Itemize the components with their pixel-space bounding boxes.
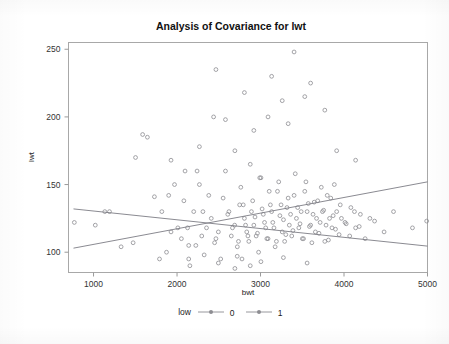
y-tick-label: 100 bbox=[46, 247, 60, 257]
data-point bbox=[282, 256, 286, 260]
legend-items: 01 bbox=[198, 308, 283, 318]
y-tick-label: 250 bbox=[46, 44, 60, 54]
legend-label-1: 1 bbox=[278, 308, 283, 318]
data-point bbox=[354, 158, 358, 162]
data-point bbox=[282, 218, 286, 222]
data-point bbox=[248, 162, 252, 166]
data-point bbox=[331, 214, 335, 218]
data-point bbox=[131, 241, 135, 245]
data-point bbox=[251, 199, 255, 203]
data-point bbox=[332, 183, 336, 187]
data-point bbox=[252, 129, 256, 133]
data-point bbox=[247, 239, 251, 243]
data-point bbox=[373, 219, 377, 223]
data-point bbox=[411, 226, 415, 230]
data-point bbox=[187, 244, 191, 248]
data-point bbox=[267, 189, 271, 193]
data-point bbox=[259, 260, 263, 264]
covariance-scatter-chart: Analysis of Covariance for lwt 100150200… bbox=[0, 0, 449, 344]
data-point bbox=[283, 239, 287, 243]
data-point bbox=[305, 261, 309, 265]
data-point bbox=[334, 227, 338, 231]
data-point bbox=[293, 172, 297, 176]
data-point bbox=[248, 264, 252, 268]
data-point bbox=[195, 169, 199, 173]
legend-label-0: 0 bbox=[230, 308, 235, 318]
data-point bbox=[214, 68, 218, 72]
data-point bbox=[198, 145, 202, 149]
data-point bbox=[212, 115, 216, 119]
data-point bbox=[276, 189, 280, 193]
data-point bbox=[200, 234, 204, 238]
data-point bbox=[292, 193, 296, 197]
x-tick-label: 3000 bbox=[251, 279, 270, 289]
data-point bbox=[348, 234, 352, 238]
data-point bbox=[202, 253, 206, 257]
data-point bbox=[357, 225, 361, 229]
data-point bbox=[250, 210, 254, 214]
data-point bbox=[169, 158, 173, 162]
x-axis-label: bwt bbox=[242, 288, 255, 297]
legend: low 01 bbox=[178, 307, 282, 318]
data-point bbox=[134, 156, 138, 160]
data-point bbox=[219, 257, 223, 261]
data-point bbox=[289, 212, 293, 216]
y-axis-ticks: 100150200250 bbox=[46, 44, 68, 257]
data-point bbox=[268, 203, 272, 207]
data-point bbox=[188, 264, 192, 268]
data-point bbox=[358, 212, 362, 216]
data-point bbox=[305, 210, 309, 214]
data-point bbox=[337, 233, 341, 237]
data-point bbox=[323, 108, 327, 112]
data-point bbox=[72, 221, 76, 225]
data-point bbox=[298, 222, 302, 226]
data-point bbox=[278, 214, 282, 218]
y-axis-label: lwt bbox=[27, 151, 36, 162]
data-point bbox=[382, 230, 386, 234]
data-point bbox=[245, 230, 249, 234]
data-point bbox=[274, 239, 278, 243]
data-point bbox=[327, 238, 331, 242]
y-tick-label: 200 bbox=[46, 112, 60, 122]
data-point bbox=[271, 221, 275, 225]
data-point bbox=[207, 193, 211, 197]
data-point bbox=[192, 210, 196, 214]
data-point bbox=[235, 245, 239, 249]
data-point bbox=[304, 180, 308, 184]
fit-line-0 bbox=[74, 182, 428, 248]
data-point bbox=[183, 169, 187, 173]
x-tick-label: 2000 bbox=[168, 279, 187, 289]
data-point bbox=[221, 196, 225, 200]
data-point bbox=[295, 216, 299, 220]
data-point bbox=[201, 210, 205, 214]
data-point bbox=[319, 185, 323, 189]
regression-fit-lines bbox=[74, 182, 428, 248]
data-point bbox=[324, 223, 328, 227]
data-point bbox=[299, 210, 303, 214]
data-point bbox=[231, 226, 235, 230]
data-point bbox=[315, 216, 319, 220]
chart-svg: Analysis of Covariance for lwt 100150200… bbox=[0, 0, 449, 344]
data-point bbox=[263, 221, 267, 225]
data-point bbox=[310, 241, 314, 245]
x-tick-label: 5000 bbox=[418, 279, 437, 289]
x-tick-label: 4000 bbox=[335, 279, 354, 289]
x-tick-label: 1000 bbox=[84, 279, 103, 289]
data-point bbox=[93, 223, 97, 227]
data-point bbox=[194, 244, 198, 248]
data-point bbox=[187, 257, 191, 261]
chart-title: Analysis of Covariance for lwt bbox=[156, 20, 306, 32]
data-point bbox=[311, 212, 315, 216]
data-point bbox=[173, 183, 177, 187]
data-point bbox=[353, 210, 357, 214]
legend-marker-dot bbox=[257, 310, 261, 314]
data-point bbox=[224, 169, 228, 173]
data-point bbox=[205, 226, 209, 230]
data-point bbox=[233, 149, 237, 153]
data-point bbox=[252, 223, 256, 227]
data-point bbox=[240, 257, 244, 261]
data-point bbox=[119, 245, 123, 249]
legend-marker-dot bbox=[209, 310, 213, 314]
data-point bbox=[209, 216, 213, 220]
data-point bbox=[216, 261, 220, 265]
